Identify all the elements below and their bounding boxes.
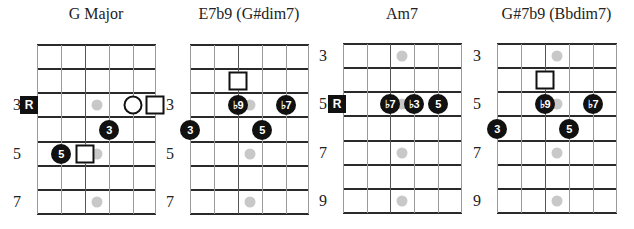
fret-inlay-dot <box>552 196 563 207</box>
fret-line <box>497 188 617 190</box>
interval-marker: 3 <box>487 119 507 139</box>
string-line <box>545 44 546 213</box>
string-line <box>616 44 617 213</box>
interval-marker: 5 <box>559 119 579 139</box>
fret-line <box>497 212 617 214</box>
chord-title: G#7b9 (Bbdim7) <box>502 5 612 23</box>
fret-line <box>497 140 617 142</box>
string-line <box>521 44 522 213</box>
fret-line <box>497 67 617 69</box>
interval-marker: ♭7 <box>583 94 603 114</box>
fret-line <box>497 43 617 45</box>
string-line <box>593 44 594 213</box>
fret-number: 3 <box>473 47 481 65</box>
fret-line <box>497 91 617 93</box>
chord-diagram: G#7b9 (Bbdim7)3579♭9♭735 <box>0 0 634 229</box>
fret-line <box>497 115 617 117</box>
fret-inlay-dot <box>552 51 563 62</box>
fret-number: 9 <box>473 192 481 210</box>
fret-number: 7 <box>473 144 481 162</box>
interval-marker: ♭9 <box>535 94 555 114</box>
square-marker <box>536 71 555 90</box>
fret-number: 5 <box>473 95 481 113</box>
fret-inlay-dot <box>552 148 563 159</box>
fret-line <box>497 164 617 166</box>
